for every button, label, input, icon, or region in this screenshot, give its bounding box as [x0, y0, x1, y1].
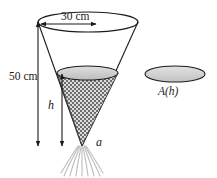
liquid-surface-ellipse: [57, 66, 118, 80]
cross-section-area-label: A(h): [158, 86, 178, 98]
cross-section-ellipse: [145, 66, 205, 82]
top-diameter-label: 30 cm: [61, 11, 89, 23]
depth-label: h: [48, 99, 54, 111]
fringe-strands: [61, 146, 103, 176]
tip-label: a: [96, 136, 102, 148]
cone-diagram-svg: [0, 0, 217, 178]
cone-figure: 30 cm 50 cm h a A(h): [0, 0, 217, 178]
cone-height-label: 50 cm: [9, 71, 37, 83]
